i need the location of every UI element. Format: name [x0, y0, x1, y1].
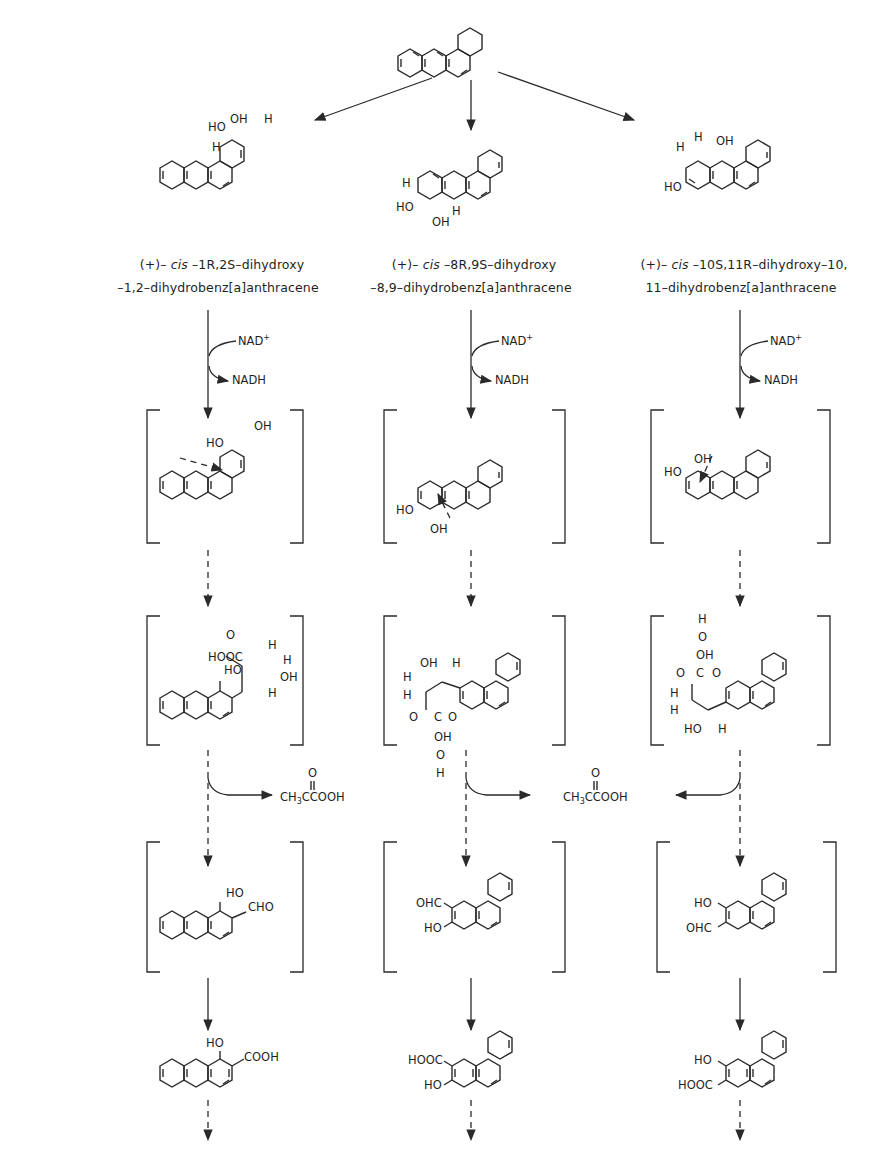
arrow-to-left-branch [315, 78, 432, 120]
middle-nadh-label: NADH [495, 373, 529, 387]
middle-catechol-structure [418, 460, 502, 518]
right-fission-o1: O [698, 630, 707, 644]
right-dehydrogenase-step [740, 310, 768, 418]
left-dihydrodiol-name-line1: (+)– cis –1R,2S–dihydroxy [140, 257, 304, 273]
arrow-to-right-branch [498, 72, 634, 120]
middle-acid-ho: HO [424, 1078, 442, 1092]
middle-dihydrodiol-h1: H [402, 176, 411, 190]
right-fission-c: C [696, 666, 704, 680]
right-pyruvate-formula: CH3CCOOH [563, 790, 628, 806]
right-dihydrodiol-h1: H [676, 140, 685, 154]
left-dehydrogenase-step [208, 310, 236, 418]
middle-aldehyde-ho: HO [424, 921, 442, 935]
right-fission-o2: O [676, 666, 685, 680]
middle-dihydrodiol-name-line2: –8,9–dihydrobenz[a]anthracene [370, 280, 571, 296]
pathway-diagram [0, 0, 881, 1165]
middle-nad-label: NAD+ [501, 333, 533, 348]
middle-fission-h3: H [403, 688, 412, 702]
right-aldehyde-bracket [657, 842, 836, 972]
left-fission-oh: OH [280, 670, 298, 684]
middle-pyruvate-release [466, 750, 530, 866]
left-acid-structure [160, 1051, 244, 1087]
right-dihydrodiol-name-line1: (+)– cis –10S,11R–dihydroxy–10, [640, 257, 847, 273]
right-fission-oh: OH [696, 648, 714, 662]
left-aldehyde-ho: HO [226, 886, 244, 900]
middle-aldehyde-ohc: OHC [416, 896, 442, 910]
right-acid-hooc: HOOC [678, 1078, 713, 1092]
left-dihydrodiol-h2: H [212, 140, 221, 154]
right-ring-fission-bracket [651, 616, 830, 745]
middle-dihydrodiol-h2: H [452, 204, 461, 218]
left-fission-h3: H [268, 686, 277, 700]
right-nadh-label: NADH [764, 373, 798, 387]
left-aldehyde-cho: CHO [248, 900, 274, 914]
middle-catechol-oh: OH [430, 522, 448, 536]
left-catechol-structure [160, 450, 244, 499]
left-aldehyde-structure [160, 902, 246, 939]
middle-acid-structure [444, 1031, 512, 1087]
right-nad-label: NAD+ [770, 333, 802, 348]
pyruvate-carbonyl-left [311, 781, 314, 790]
left-fission-h2: H [283, 653, 292, 667]
middle-dihydrodiol-ho: HO [396, 200, 414, 214]
left-fission-ho: HO [224, 663, 242, 677]
middle-aldehyde-structure [444, 873, 512, 929]
middle-fission-o3: O [436, 748, 445, 762]
left-catechol-oh: OH [254, 419, 272, 433]
left-dihydrodiol-ho: HO [208, 120, 226, 134]
pyruvate-carbonyl-right [594, 781, 597, 790]
right-dihydrodiol-name-line2: 11–dihydrobenz[a]anthracene [646, 280, 837, 296]
middle-catechol-bracket [384, 410, 565, 543]
left-nad-label: NAD+ [238, 333, 270, 348]
middle-fission-h2: H [403, 670, 412, 684]
middle-fission-h1: H [452, 656, 461, 670]
right-dihydrodiol-h2: H [694, 130, 703, 144]
middle-ring-fission-structure [426, 653, 520, 710]
middle-fission-o2: O [448, 710, 457, 724]
left-dihydrodiol-name-line2: –1,2–dihydrobenz[a]anthracene [117, 280, 318, 296]
right-fission-ho: HO [684, 722, 702, 736]
right-pyruvate-release [676, 750, 740, 866]
right-aldehyde-ho: HO [694, 896, 712, 910]
right-fission-h1: H [698, 612, 707, 626]
left-catechol-bracket [147, 410, 303, 543]
right-fission-h3: H [670, 703, 679, 717]
right-acid-ho: HO [694, 1053, 712, 1067]
right-aldehyde-structure [718, 873, 786, 929]
right-catechol-oh: OH [694, 452, 712, 466]
right-fission-h4: H [718, 722, 727, 736]
left-fission-hooc: HOOC [208, 650, 243, 664]
left-dihydrodiol-structure [160, 140, 244, 189]
right-catechol-ho: HO [664, 465, 682, 479]
left-aldehyde-bracket [147, 842, 303, 972]
left-dihydrodiol-h1: H [264, 112, 273, 126]
right-dihydrodiol-oh: OH [716, 134, 734, 148]
left-acid-ho: HO [206, 1036, 224, 1050]
left-catechol-ho: HO [206, 436, 224, 450]
middle-dihydrodiol-structure [418, 150, 502, 199]
left-pyruvate-o: O [308, 766, 317, 780]
right-pyruvate-o: O [591, 766, 600, 780]
middle-dihydrodiol-name-line1: (+)– cis –8R,9S–dihydroxy [392, 257, 556, 273]
right-fission-o3: O [712, 666, 721, 680]
right-aldehyde-ohc: OHC [686, 921, 712, 935]
right-dihydrodiol-ho: HO [664, 180, 682, 194]
right-acid-structure [718, 1031, 786, 1087]
left-pyruvate-formula: CH3CCOOH [280, 790, 345, 806]
left-nadh-label: NADH [232, 373, 266, 387]
middle-dehydrogenase-step [471, 310, 499, 418]
middle-fission-o1: O [409, 710, 418, 724]
left-dihydrodiol-oh: OH [230, 112, 248, 126]
middle-fission-oh: OH [420, 656, 438, 670]
middle-acid-hooc: HOOC [408, 1053, 443, 1067]
left-acid-cooh: COOH [244, 1050, 279, 1064]
benz-a-anthracene-structure [398, 28, 482, 77]
middle-dihydrodiol-oh: OH [432, 215, 450, 229]
middle-fission-oh2: OH [434, 730, 452, 744]
middle-fission-c: C [434, 710, 442, 724]
middle-fission-h4: H [436, 766, 445, 780]
middle-catechol-ho: HO [396, 503, 414, 517]
right-fission-h2: H [670, 686, 679, 700]
left-fission-o: O [226, 628, 235, 642]
left-pyruvate-release [208, 750, 272, 866]
